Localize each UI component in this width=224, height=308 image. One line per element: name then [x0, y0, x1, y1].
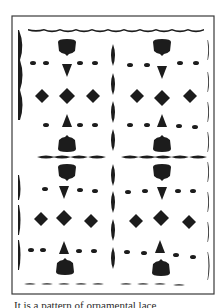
lace-pattern-figure	[0, 0, 224, 308]
right-side-border	[208, 40, 210, 280]
figure-caption: It is a pattern of ornamental lace	[14, 298, 214, 308]
top-scallop-border	[28, 29, 204, 32]
left-side-border	[18, 30, 23, 270]
vertical-axis-lenses	[111, 44, 115, 269]
bottom-dash-border	[24, 283, 185, 285]
horizontal-axis-lenses	[37, 156, 207, 159]
